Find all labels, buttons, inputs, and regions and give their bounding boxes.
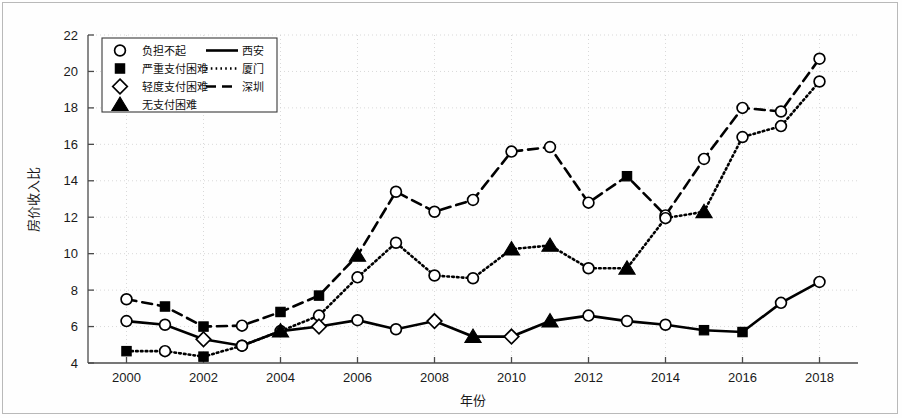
marker-circle xyxy=(352,272,363,283)
x-tick-label: 2002 xyxy=(189,370,218,385)
x-tick-label: 2016 xyxy=(728,370,757,385)
x-tick-label: 2010 xyxy=(497,370,526,385)
marker-circle xyxy=(237,340,248,351)
y-axis-title: 房价收入比 xyxy=(26,167,41,232)
marker-circle xyxy=(468,273,479,284)
marker-circle xyxy=(506,146,517,157)
series-line xyxy=(127,81,820,356)
marker-circle xyxy=(660,319,671,330)
y-tick-label: 4 xyxy=(71,356,78,371)
marker-circle xyxy=(391,237,402,248)
marker-circle xyxy=(160,346,171,357)
y-tick-label: 16 xyxy=(64,137,78,152)
series-markers-西安 xyxy=(121,277,825,352)
y-tick-label: 10 xyxy=(64,246,78,261)
marker-diamond xyxy=(427,314,442,329)
y-tick-label: 12 xyxy=(64,210,78,225)
marker-circle xyxy=(429,270,440,281)
marker-circle xyxy=(814,277,825,288)
marker-square xyxy=(199,352,208,361)
legend: 负担不起严重支付困难轻度支付困难无支付困难西安厦门深圳 xyxy=(102,38,277,112)
marker-circle xyxy=(737,102,748,113)
marker-circle xyxy=(429,206,440,217)
marker-square xyxy=(699,326,708,335)
marker-triangle xyxy=(696,204,712,217)
marker-circle xyxy=(737,132,748,143)
marker-circle xyxy=(391,324,402,335)
y-tick-label: 22 xyxy=(64,28,78,43)
x-tick-label: 2008 xyxy=(420,370,449,385)
marker-triangle xyxy=(349,248,365,261)
marker-square xyxy=(276,307,285,316)
marker-square xyxy=(160,302,169,311)
series-厦门 xyxy=(127,81,820,356)
marker-square xyxy=(738,327,747,336)
marker-circle xyxy=(814,53,825,64)
y-tick-label: 14 xyxy=(64,173,78,188)
marker-circle xyxy=(237,320,248,331)
marker-circle xyxy=(121,316,132,327)
x-tick-label: 2004 xyxy=(266,370,295,385)
marker-circle xyxy=(115,45,126,56)
marker-circle xyxy=(660,213,671,224)
marker-square xyxy=(622,172,631,181)
y-tick-label: 6 xyxy=(71,319,78,334)
marker-diamond xyxy=(504,329,519,344)
x-tick-label: 2012 xyxy=(574,370,603,385)
marker-circle xyxy=(583,310,594,321)
marker-square xyxy=(314,291,323,300)
marker-square xyxy=(122,347,131,356)
marker-triangle xyxy=(542,238,558,251)
x-tick-label: 2006 xyxy=(343,370,372,385)
marker-circle xyxy=(352,315,363,326)
marker-circle xyxy=(583,263,594,274)
y-tick-label: 18 xyxy=(64,100,78,115)
marker-circle xyxy=(391,186,402,197)
marker-square xyxy=(199,322,208,331)
marker-circle xyxy=(583,197,594,208)
y-tick-label: 20 xyxy=(64,64,78,79)
marker-circle xyxy=(160,319,171,330)
marker-circle xyxy=(622,316,633,327)
series-markers-厦门 xyxy=(122,76,825,361)
legend-marker-label: 无支付困难 xyxy=(142,99,197,111)
x-axis-title: 年份 xyxy=(460,393,486,408)
chart-canvas: 4681012141618202220002002200420062008201… xyxy=(0,0,902,418)
legend-line-label: 深圳 xyxy=(242,81,264,93)
legend-marker-label: 负担不起 xyxy=(142,44,186,57)
marker-triangle xyxy=(503,242,519,255)
marker-circle xyxy=(699,154,710,165)
marker-square xyxy=(115,64,124,73)
marker-diamond xyxy=(312,319,327,334)
marker-circle xyxy=(468,195,479,206)
marker-circle xyxy=(776,121,787,132)
figure-container: 4681012141618202220002002200420062008201… xyxy=(0,0,902,418)
marker-circle xyxy=(121,294,132,305)
marker-circle xyxy=(776,297,787,308)
marker-circle xyxy=(814,76,825,87)
marker-circle xyxy=(776,106,787,117)
legend-line-label: 西安 xyxy=(242,44,264,57)
marker-circle xyxy=(545,142,556,153)
y-tick-label: 8 xyxy=(71,283,78,298)
x-tick-label: 2018 xyxy=(805,370,834,385)
legend-marker-label: 严重支付困难 xyxy=(142,62,208,75)
legend-line-label: 厦门 xyxy=(242,62,264,75)
marker-diamond xyxy=(196,332,211,347)
legend-marker-label: 轻度支付困难 xyxy=(142,80,208,93)
x-tick-label: 2014 xyxy=(651,370,680,385)
x-tick-label: 2000 xyxy=(112,370,141,385)
